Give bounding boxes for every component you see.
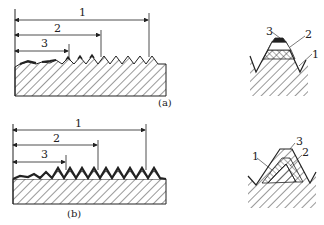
workpiece-body-b (13, 179, 166, 204)
detail-label-1-b: 1 (252, 150, 259, 163)
dim-label-3-a: 3 (41, 37, 48, 50)
dim-label-2-b: 2 (53, 132, 60, 145)
detail-label-2-b: 2 (302, 146, 309, 159)
dim-label-3-b: 3 (41, 148, 48, 161)
panel-a: 1 2 3 3 2 1 (a) (15, 6, 319, 108)
dim-label-2-a: 2 (54, 22, 61, 35)
caption-b: (b) (67, 208, 81, 219)
detail-label-3-a: 3 (266, 25, 273, 38)
thread-rolling-diagram: 1 2 3 3 2 1 (a) 1 (0, 0, 324, 225)
detail-label-1-a: 1 (312, 48, 319, 61)
detail-view-b: 3 1 2 (248, 135, 316, 208)
panel-b: 1 2 3 3 1 2 (b) (13, 117, 316, 219)
detail-label-2-a: 2 (305, 28, 312, 41)
dim-label-1-b: 1 (75, 117, 82, 130)
workpiece-body-a (15, 56, 166, 96)
dim-label-1-a: 1 (79, 6, 86, 19)
caption-a: (a) (158, 97, 172, 108)
detail-view-a: 3 2 1 (250, 25, 319, 96)
